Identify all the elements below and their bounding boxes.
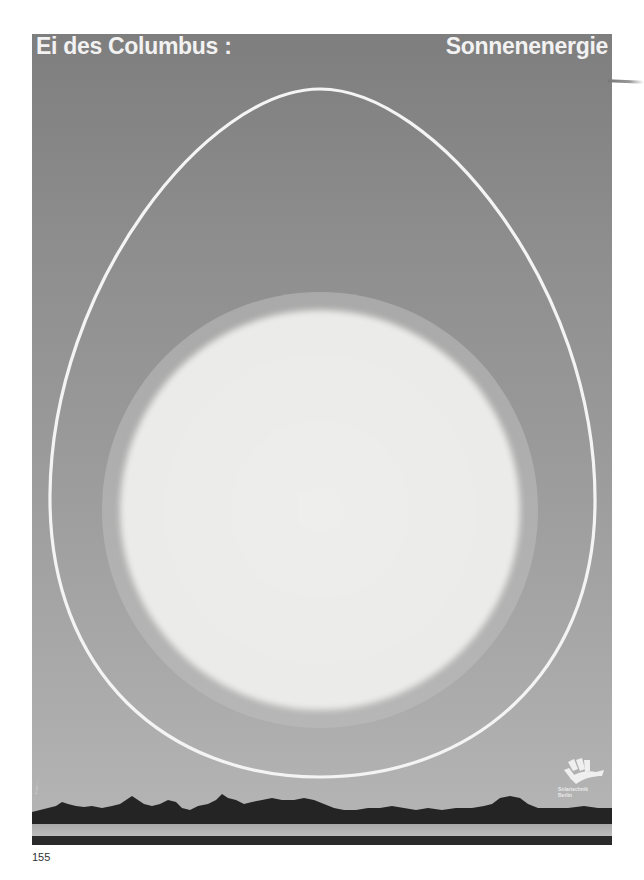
poster-title-right: Sonnenenergie bbox=[446, 34, 608, 59]
horizon-light-band bbox=[32, 824, 612, 836]
poster-title-left: Ei des Columbus : bbox=[36, 34, 232, 59]
poster: Ei des Columbus : Sonnenenergie Foto: ..… bbox=[32, 34, 612, 845]
tree-silhouette bbox=[32, 786, 612, 826]
egg-outline bbox=[32, 34, 612, 845]
paper-scratch bbox=[608, 79, 644, 83]
horizon-dark-band bbox=[32, 836, 612, 845]
page-number: 155 bbox=[32, 851, 50, 863]
photo-credit: Foto: ... bbox=[34, 734, 42, 794]
